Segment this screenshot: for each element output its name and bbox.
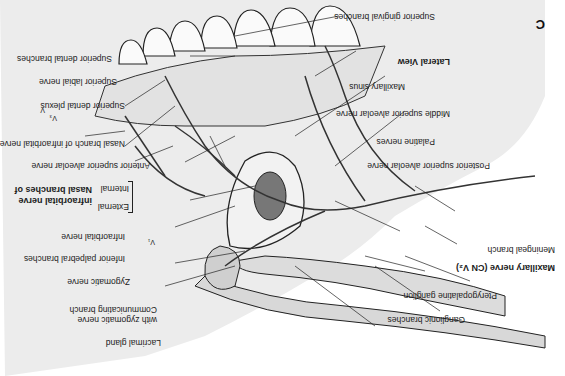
label-maxillary-nerve: Maxillary nerve (CN V₂) bbox=[456, 263, 555, 272]
label-inferior-palpebral-branches: Inferior palpebral branches bbox=[24, 255, 125, 264]
label-palatine-nerves: Palatine nerves bbox=[376, 138, 435, 147]
label-ganglionic-branches: Ganglionic branches bbox=[388, 316, 466, 325]
infraorbital-foramen bbox=[254, 172, 286, 220]
label-superior-dental-branches: Superior dental branches bbox=[17, 55, 112, 64]
label-internal: Internal bbox=[101, 185, 129, 194]
nasal-branches-bracket bbox=[128, 181, 133, 213]
label-nasal-branch-infraorbital: Nasal branch of infraorbital nerve bbox=[0, 140, 125, 149]
panel-letter: C bbox=[536, 17, 545, 32]
label-zygomatic-nerve: Zygomatic nerve bbox=[67, 278, 130, 287]
label-superior-dental-plexus: Superior dental plexus bbox=[40, 102, 125, 111]
label-pterygopalatine-ganglion: Pterygopalatine ganglion bbox=[403, 292, 497, 301]
label-maxillary-sinus: Maxillary sinus bbox=[349, 83, 405, 92]
label-middle-superior-alveolar-nerve: Middle superior alveolar nerve bbox=[336, 110, 450, 119]
label-v3: V₃ bbox=[49, 115, 57, 122]
anatomy-figure: V C Lateral View Superior gingival branc… bbox=[0, 0, 565, 376]
label-meningeal-branch: Meningeal branch bbox=[487, 246, 555, 255]
label-communicating-branch-2: with zygomatic nerve bbox=[78, 316, 157, 325]
label-superior-labial-nerve: Superior labial nerve bbox=[39, 78, 117, 87]
label-anterior-superior-alveolar-nerve: Anterior superior alveolar nerve bbox=[31, 162, 150, 171]
label-lacrimal-gland: Lacrimal gland bbox=[106, 339, 161, 348]
label-nasal-branches-title-1: Nasal branches of bbox=[14, 185, 92, 194]
view-title: Lateral View bbox=[398, 57, 450, 66]
label-external: External bbox=[98, 203, 129, 212]
label-communicating-branch-1: Communicating branch bbox=[70, 306, 157, 315]
label-superior-gingival-branches: Superior gingival branches bbox=[334, 13, 435, 22]
label-posterior-superior-alveolar-nerve: Posterior superior alveolar nerve bbox=[367, 162, 490, 171]
label-nasal-branches-title-2: infraorbital nerve bbox=[18, 196, 92, 205]
label-infraorbital-nerve: Infraorbital nerve bbox=[61, 233, 125, 242]
label-v1: V₁ bbox=[148, 239, 155, 246]
